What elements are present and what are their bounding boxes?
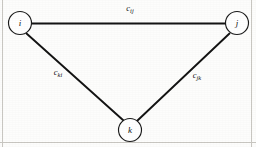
figure-container: i j k cij cki cjk <box>0 0 256 147</box>
node-label-j: j <box>236 19 239 28</box>
edge-label-ki: cki <box>54 68 63 78</box>
edge-label-jk: cjk <box>193 71 202 81</box>
node-label-k: k <box>128 126 132 135</box>
edge-j-k <box>138 34 230 121</box>
edge-label-ij: cij <box>126 4 134 14</box>
edge-label-ij-subscript: ij <box>130 7 134 14</box>
edge-k-i <box>27 34 124 121</box>
node-label-i: i <box>19 19 22 28</box>
edge-label-ki-subscript: ki <box>57 71 62 78</box>
edge-label-jk-subscript: jk <box>196 74 201 81</box>
nodes-group <box>9 12 249 142</box>
